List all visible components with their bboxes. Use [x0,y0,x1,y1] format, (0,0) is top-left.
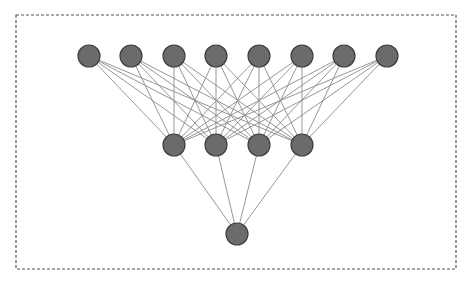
connections [89,56,387,234]
hidden-node-1 [205,134,227,156]
edge-input-1-hidden-0 [131,56,174,145]
edge-hidden-1-output-0 [216,145,237,234]
edge-input-0-hidden-0 [89,56,174,145]
input-node-2 [163,45,185,67]
hidden-node-2 [248,134,270,156]
input-node-6 [333,45,355,67]
edge-hidden-2-output-0 [237,145,259,234]
input-node-4 [248,45,270,67]
edge-hidden-0-output-0 [174,145,237,234]
input-node-1 [120,45,142,67]
output-node-0 [226,223,248,245]
edge-input-7-hidden-2 [259,56,387,145]
input-node-3 [205,45,227,67]
edge-input-1-hidden-1 [131,56,216,145]
input-node-7 [376,45,398,67]
edge-input-7-hidden-1 [216,56,387,145]
input-node-0 [78,45,100,67]
edge-input-7-hidden-3 [302,56,387,145]
edge-input-7-hidden-0 [174,56,387,145]
hidden-node-0 [163,134,185,156]
input-node-5 [291,45,313,67]
neural-network-diagram [0,0,467,282]
edge-hidden-3-output-0 [237,145,302,234]
hidden-node-3 [291,134,313,156]
